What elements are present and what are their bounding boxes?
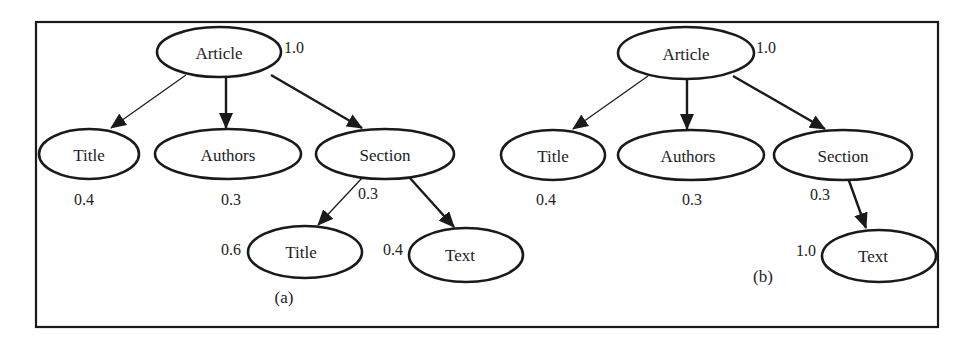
weight-section-title: 0.6 xyxy=(221,241,241,258)
weight-authors: 0.3 xyxy=(682,191,702,208)
weight-section-text: 0.4 xyxy=(383,241,403,258)
node-label: Title xyxy=(285,243,317,262)
weight-section-text: 1.0 xyxy=(796,242,816,259)
edge-article-section xyxy=(733,76,825,129)
node-label: Section xyxy=(360,146,411,165)
node-label: Title xyxy=(537,147,569,166)
caption-a: (a) xyxy=(275,288,294,307)
edge-section-title xyxy=(318,177,363,225)
weight-article: 1.0 xyxy=(756,39,776,56)
node-section: Section xyxy=(774,130,912,180)
edge-article-title xyxy=(573,76,648,129)
weight-title: 0.4 xyxy=(536,191,556,208)
panel-a: Article 1.0 Title 0.4 Authors 0.3 Sectio… xyxy=(39,27,523,307)
node-label: Article xyxy=(195,44,242,63)
node-label: Section xyxy=(818,147,869,166)
edge-article-title xyxy=(111,75,186,128)
edge-section-text xyxy=(848,178,866,228)
node-label: Text xyxy=(858,247,888,266)
weight-section: 0.3 xyxy=(810,186,830,203)
node-authors: Authors xyxy=(618,130,764,180)
node-section: Section xyxy=(316,129,454,179)
node-authors: Authors xyxy=(155,129,301,179)
caption-b: (b) xyxy=(753,267,773,286)
weight-title: 0.4 xyxy=(74,191,94,208)
panel-b: Article 1.0 Title 0.4 Authors 0.3 Sectio… xyxy=(501,27,936,286)
edge-section-text xyxy=(409,177,454,227)
node-section-text: Text xyxy=(409,228,523,282)
node-section-text: Text xyxy=(822,230,936,282)
node-label: Article xyxy=(662,45,709,64)
weight-article: 1.0 xyxy=(284,39,304,56)
diagram-canvas: Article 1.0 Title 0.4 Authors 0.3 Sectio… xyxy=(0,0,970,344)
weight-section: 0.3 xyxy=(358,185,378,202)
node-article: Article xyxy=(618,27,754,79)
node-title: Title xyxy=(39,129,139,179)
edge-article-section xyxy=(271,75,362,128)
node-label: Text xyxy=(445,246,475,265)
node-label: Authors xyxy=(201,146,256,165)
weight-authors: 0.3 xyxy=(221,191,241,208)
tree-diagram: Article 1.0 Title 0.4 Authors 0.3 Sectio… xyxy=(0,0,970,344)
node-article: Article xyxy=(157,27,281,77)
node-section-title: Title xyxy=(248,226,362,278)
node-title: Title xyxy=(501,130,605,180)
node-label: Authors xyxy=(661,147,716,166)
node-label: Title xyxy=(73,146,105,165)
